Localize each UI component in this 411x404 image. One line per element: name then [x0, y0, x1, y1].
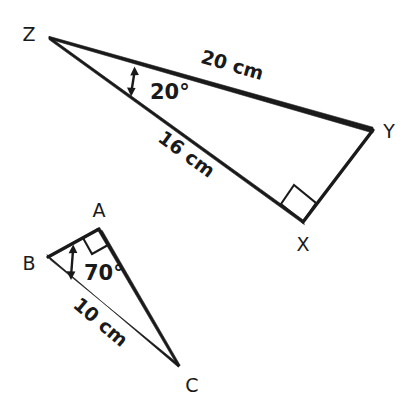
side-zx [49, 37, 304, 225]
side-label-bc: 10 cm [69, 293, 132, 351]
angle-label-b: 70° [84, 261, 124, 285]
vertex-label-z: Z [22, 23, 35, 45]
side-label-zy: 20 cm [199, 45, 267, 84]
diagram-canvas: Z Y X 20 cm 16 cm 20° [0, 0, 411, 404]
triangle-abc: A B C 10 cm 70° [22, 199, 198, 396]
vertex-label-b: B [22, 252, 35, 274]
geometry-figure: Z Y X 20 cm 16 cm 20° [0, 0, 411, 404]
angle-marker-z-20 [127, 67, 139, 97]
vertex-label-y: Y [382, 120, 395, 142]
triangle-xyz: Z Y X 20 cm 16 cm 20° [22, 23, 395, 255]
vertex-label-x: X [296, 233, 309, 255]
angle-label-z: 20° [150, 80, 190, 104]
vertex-label-c: C [185, 374, 198, 396]
side-ac [97, 229, 180, 367]
vertex-label-a: A [93, 199, 106, 221]
